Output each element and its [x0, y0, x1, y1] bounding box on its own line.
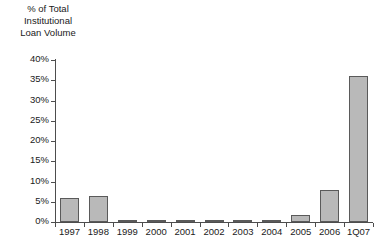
bar	[60, 198, 79, 222]
x-tick-label: 2003	[232, 226, 253, 237]
y-axis-title-line-3: Loan Volume	[2, 27, 94, 39]
y-axis-title: % of Total Institutional Loan Volume	[2, 3, 94, 40]
x-tick-mark	[344, 223, 345, 227]
x-tick-label: 1Q07	[347, 226, 370, 237]
x-tick-label: 2005	[290, 226, 311, 237]
x-tick-mark	[228, 223, 229, 227]
x-tick-label: 1998	[88, 226, 109, 237]
y-tick-mark	[51, 202, 55, 203]
x-tick-mark	[315, 223, 316, 227]
plot-area: 0%5%10%15%20%25%30%35%40%	[55, 60, 373, 222]
bar	[262, 220, 281, 222]
x-tick-mark	[113, 223, 114, 227]
y-tick-mark	[51, 101, 55, 102]
bar	[176, 220, 195, 222]
x-tick-mark	[257, 223, 258, 227]
x-tick-mark	[55, 223, 56, 227]
y-tick-label: 10%	[30, 175, 49, 186]
y-tick-label: 25%	[30, 114, 49, 125]
y-tick-label: 30%	[30, 94, 49, 105]
y-axis-title-line-2: Institutional	[2, 15, 94, 27]
x-tick-mark	[200, 223, 201, 227]
x-tick-label: 1999	[117, 226, 138, 237]
x-tick-mark	[373, 223, 374, 227]
y-tick-label: 5%	[35, 195, 49, 206]
y-tick-label: 20%	[30, 134, 49, 145]
y-axis-title-line-1: % of Total	[2, 3, 94, 15]
y-tick-mark	[51, 80, 55, 81]
y-tick-mark	[51, 141, 55, 142]
bar	[291, 215, 310, 222]
y-tick-mark	[51, 60, 55, 61]
x-tick-label: 2006	[319, 226, 340, 237]
x-tick-label: 2002	[203, 226, 224, 237]
y-axis-line	[55, 59, 56, 223]
y-tick-mark	[51, 121, 55, 122]
x-tick-mark	[142, 223, 143, 227]
bar	[349, 76, 368, 222]
bar	[89, 196, 108, 222]
x-tick-mark	[286, 223, 287, 227]
x-tick-mark	[171, 223, 172, 227]
y-tick-label: 40%	[30, 53, 49, 64]
x-axis-line	[55, 222, 373, 223]
x-tick-label: 1997	[59, 226, 80, 237]
bar	[233, 220, 252, 222]
bar	[320, 190, 339, 222]
x-tick-mark	[84, 223, 85, 227]
y-tick-mark	[51, 161, 55, 162]
bar	[118, 220, 137, 222]
y-tick-label: 35%	[30, 73, 49, 84]
x-tick-label: 2001	[175, 226, 196, 237]
bar	[205, 220, 224, 222]
chart-figure: % of Total Institutional Loan Volume 0%5…	[0, 0, 380, 251]
bar	[147, 220, 166, 222]
y-tick-mark	[51, 182, 55, 183]
y-tick-label: 15%	[30, 154, 49, 165]
y-tick-label: 0%	[35, 215, 49, 226]
x-tick-label: 2004	[261, 226, 282, 237]
x-tick-label: 2000	[146, 226, 167, 237]
